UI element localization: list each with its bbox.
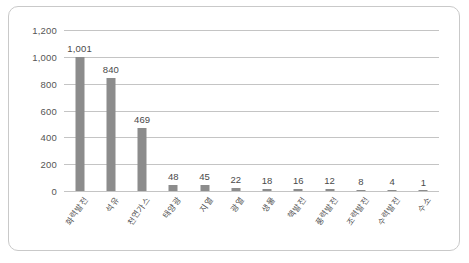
x-axis-tick-label: 지열 bbox=[195, 194, 214, 214]
category-slot: 지열 bbox=[189, 191, 220, 249]
y-axis-tick-label: 600 bbox=[41, 105, 57, 116]
x-axis-tick-label: 수력발전 bbox=[374, 194, 402, 227]
bar-series: 1,001840469484522181612841 bbox=[64, 30, 439, 191]
x-axis-tick-label: 핵발전 bbox=[285, 194, 309, 221]
bar-value-label: 45 bbox=[199, 171, 210, 182]
category-slot: 조력발전 bbox=[345, 191, 376, 249]
bar-value-label: 22 bbox=[230, 174, 241, 185]
x-axis-tick-label: 풍력발전 bbox=[311, 194, 339, 227]
bar-value-label: 1,001 bbox=[67, 43, 92, 54]
x-axis-tick-label: 생물 bbox=[258, 194, 277, 214]
bar-value-label: 48 bbox=[168, 171, 179, 182]
bar-slot: 22 bbox=[220, 30, 251, 191]
y-axis-tick-label: 200 bbox=[41, 159, 57, 170]
x-axis-tick-label: 천연가스 bbox=[124, 194, 152, 227]
category-slot: 생물 bbox=[252, 191, 283, 249]
bar-slot: 1,001 bbox=[64, 30, 95, 191]
x-axis-tick-label: 화력발전 bbox=[61, 194, 89, 227]
category-slot: 천연가스 bbox=[127, 191, 158, 249]
bar[interactable] bbox=[75, 57, 84, 191]
category-slot: 핵발전 bbox=[283, 191, 314, 249]
plot-area: 02004006008001,0001,200 1,00184046948452… bbox=[64, 30, 439, 191]
bar[interactable] bbox=[106, 78, 115, 191]
bar-slot: 469 bbox=[127, 30, 158, 191]
category-slot: 수소 bbox=[408, 191, 439, 249]
bar-value-label: 16 bbox=[293, 175, 304, 186]
y-axis-tick-label: 400 bbox=[41, 132, 57, 143]
x-axis-tick-label: 수소 bbox=[414, 194, 433, 214]
bar-slot: 8 bbox=[345, 30, 376, 191]
x-axis-tick-label: 석유 bbox=[102, 194, 121, 214]
y-axis-tick-label: 1,000 bbox=[32, 51, 57, 62]
bar-slot: 4 bbox=[377, 30, 408, 191]
bar-value-label: 12 bbox=[324, 175, 335, 186]
category-slot: 수력발전 bbox=[377, 191, 408, 249]
y-axis-tick-label: 800 bbox=[41, 78, 57, 89]
chart-figure: 02004006008001,0001,200 1,00184046948452… bbox=[0, 0, 469, 263]
bar-slot: 1 bbox=[408, 30, 439, 191]
x-axis-tick-label: 조력발전 bbox=[343, 194, 371, 227]
bar-value-label: 1 bbox=[421, 177, 426, 188]
bar[interactable] bbox=[138, 128, 147, 191]
bar-value-label: 840 bbox=[103, 64, 119, 75]
x-axis-tick-label: 태양광 bbox=[160, 194, 184, 221]
bar-value-label: 8 bbox=[358, 176, 363, 187]
bar-value-label: 4 bbox=[389, 176, 394, 187]
bar-slot: 18 bbox=[252, 30, 283, 191]
bar-value-label: 469 bbox=[134, 114, 150, 125]
bar-slot: 45 bbox=[189, 30, 220, 191]
category-slot: 화력발전 bbox=[64, 191, 95, 249]
category-slot: 풍력발전 bbox=[314, 191, 345, 249]
bar-slot: 48 bbox=[158, 30, 189, 191]
y-axis-tick-label: 0 bbox=[52, 186, 57, 197]
x-axis-category-labels: 화력발전석유천연가스태양광지열광열생물핵발전풍력발전조력발전수력발전수소 bbox=[64, 191, 439, 249]
bar-slot: 16 bbox=[283, 30, 314, 191]
category-slot: 석유 bbox=[95, 191, 126, 249]
category-slot: 태양광 bbox=[158, 191, 189, 249]
bar-value-label: 18 bbox=[262, 175, 273, 186]
x-axis-tick-label: 광열 bbox=[227, 194, 246, 214]
category-slot: 광열 bbox=[220, 191, 251, 249]
y-axis-tick-label: 1,200 bbox=[32, 25, 57, 36]
bar-slot: 840 bbox=[95, 30, 126, 191]
bar-slot: 12 bbox=[314, 30, 345, 191]
